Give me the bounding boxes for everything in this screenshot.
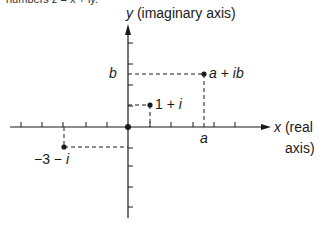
y-axis-arrowhead: [125, 24, 131, 35]
point-a-plus-ib: [201, 71, 206, 76]
origin-point: [125, 124, 131, 130]
y-axis-label: y (imaginary axis): [126, 6, 236, 20]
point-neg3-minus-i: [61, 144, 66, 149]
label-1-plus-i: 1 + i: [155, 97, 182, 111]
x-axis-label: x (real: [274, 120, 313, 134]
marker-a: a: [200, 131, 208, 145]
x-axis-label-line2: axis): [285, 141, 315, 155]
point-1-plus-i: [147, 102, 152, 107]
complex-plane-diagram: [0, 0, 332, 228]
label-neg3-minus-i: −3 − i: [34, 152, 69, 166]
x-axis-arrowhead: [261, 124, 271, 130]
label-a-plus-ib: a + ib: [209, 66, 244, 80]
marker-b: b: [109, 66, 117, 80]
